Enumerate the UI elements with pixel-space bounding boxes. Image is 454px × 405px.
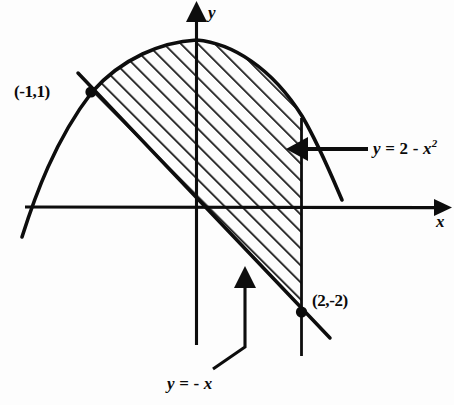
- line-eq-y: y: [167, 374, 175, 393]
- line-eq-equals: = -: [175, 374, 204, 393]
- figure-canvas: (-1,1) (2,-2) y x y = 2 - x2 y = - x: [0, 0, 454, 405]
- point-label-lower-right: (2,-2): [312, 292, 348, 309]
- line-eq-x: x: [204, 374, 213, 393]
- parabola-eq-equals: = 2 -: [381, 139, 423, 158]
- shaded-region: [60, 20, 340, 340]
- parabola-eq-y: y: [373, 139, 381, 158]
- point-label-upper-left: (-1,1): [14, 83, 50, 100]
- intersection-dot-upper-left: [85, 86, 96, 97]
- line-leader-arrow: [213, 266, 256, 369]
- line-equation-label: y = - x: [167, 375, 213, 392]
- y-axis-label: y: [208, 4, 216, 21]
- x-axis-label: x: [436, 213, 445, 230]
- math-plot-svg: [0, 0, 454, 405]
- parabola-eq-x: x: [423, 139, 432, 158]
- parabola-equation-label: y = 2 - x2: [373, 140, 437, 157]
- parabola-eq-exponent: 2: [432, 137, 438, 149]
- intersection-dot-lower-right: [296, 306, 307, 317]
